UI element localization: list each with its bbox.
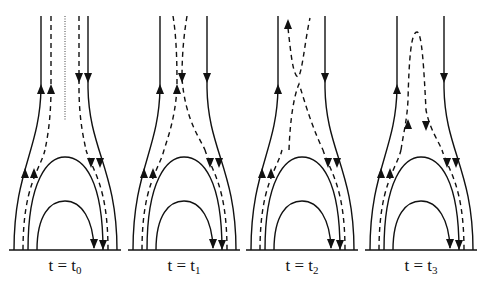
arrow-up-icon: [404, 119, 412, 129]
panel-time-label: t = t0: [5, 256, 125, 276]
arrow-up-icon: [258, 168, 266, 178]
dashed-field-line-right-lower: [442, 150, 464, 250]
large-loop: [384, 157, 459, 250]
outer-field-line-left: [251, 16, 278, 250]
time-label-text: t = t: [285, 256, 313, 275]
dashed-field-line-right-lower: [323, 150, 345, 250]
panel-time-label: t = t1: [124, 256, 244, 276]
arrow-down-icon: [90, 239, 98, 249]
arrow-down-icon: [336, 240, 344, 250]
reconnection-diagram: [0, 0, 485, 288]
arrow-down-icon: [440, 73, 448, 83]
arrow-down-icon: [87, 158, 95, 168]
dashed-field-line-right-upper: [182, 16, 205, 150]
arrow-down-icon: [84, 73, 92, 83]
arrow-up-icon: [173, 84, 181, 94]
small-loop: [393, 201, 450, 250]
outer-field-line-left: [133, 16, 160, 250]
dashed-field-line-right-lower: [205, 150, 227, 250]
arrow-down-icon: [75, 73, 83, 83]
arrow-up-icon: [37, 84, 45, 94]
outer-field-line-right: [325, 16, 354, 250]
arrow-down-icon: [443, 158, 451, 168]
time-label-text: t = t: [167, 256, 195, 275]
dashed-field-line-left-upper: [45, 16, 51, 150]
arrow-down-icon: [324, 158, 332, 168]
arrow-up-icon: [47, 84, 55, 94]
time-label-subscript: 2: [313, 264, 319, 276]
panel-0: [9, 16, 121, 250]
small-loop: [156, 201, 213, 250]
panel-time-label: t = t2: [242, 256, 362, 276]
arrow-down-icon: [321, 73, 329, 83]
time-label-text: t = t: [48, 256, 76, 275]
large-loop: [147, 157, 222, 250]
arrow-down-icon: [206, 158, 214, 168]
arrow-up-icon: [377, 168, 385, 178]
arrow-up-icon: [393, 84, 401, 94]
arrow-up-icon: [284, 19, 292, 29]
arrow-down-icon: [178, 73, 186, 83]
dashed-upper-reconnected-line: [288, 18, 310, 77]
outer-field-line-right: [88, 16, 117, 250]
arrow-down-icon: [327, 239, 335, 249]
arrow-down-icon: [422, 121, 430, 131]
dashed-field-line-right-upper: [79, 16, 86, 150]
outer-field-line-left: [370, 16, 397, 250]
small-loop: [274, 201, 331, 250]
arrow-up-icon: [156, 84, 164, 94]
time-label-subscript: 1: [195, 264, 201, 276]
arrow-down-icon: [203, 73, 211, 83]
large-loop: [28, 157, 103, 250]
time-label-text: t = t: [404, 256, 432, 275]
panel-3: [365, 16, 477, 250]
arrow-down-icon: [446, 239, 454, 249]
small-loop: [37, 201, 94, 250]
outer-field-line-right: [444, 16, 473, 250]
panel-time-label: t = t3: [361, 256, 481, 276]
time-label-subscript: 3: [432, 264, 438, 276]
panel-2: [246, 16, 358, 250]
dashed-field-line-right-lower: [86, 150, 108, 250]
time-label-subscript: 0: [76, 264, 82, 276]
panel-1: [128, 16, 240, 250]
large-loop: [265, 157, 340, 250]
arrow-down-icon: [99, 240, 107, 250]
dashed-reconnected-loop: [401, 32, 442, 150]
arrow-down-icon: [218, 240, 226, 250]
arrow-down-icon: [455, 240, 463, 250]
dashed-field-line-left-upper: [164, 16, 177, 150]
arrow-up-icon: [21, 168, 29, 178]
dashed-lower-reconnected-line: [289, 84, 323, 150]
outer-field-line-right: [207, 16, 236, 250]
arrow-up-icon: [274, 84, 282, 94]
arrow-up-icon: [140, 168, 148, 178]
arrow-down-icon: [209, 239, 217, 249]
outer-field-line-left: [14, 16, 41, 250]
